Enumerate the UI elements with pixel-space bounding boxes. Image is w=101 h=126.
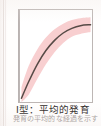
growth-curve-svg xyxy=(20,10,92,102)
figure-caption: Ⅰ型：平均的発育 発育の平均的な経過を示す xyxy=(12,104,101,126)
page-gutter-rule-secondary xyxy=(5,0,6,126)
figure-page: Ⅰ型：平均的発育 発育の平均的な経過を示す xyxy=(0,0,101,126)
page-gutter-rule xyxy=(3,0,4,126)
figure-caption-line-2: 発育の平均的な経過を示す xyxy=(12,115,101,123)
figure-caption-line-1: Ⅰ型：平均的発育 xyxy=(12,104,101,115)
confidence-band xyxy=(21,17,90,102)
growth-curve-chart xyxy=(19,9,93,103)
